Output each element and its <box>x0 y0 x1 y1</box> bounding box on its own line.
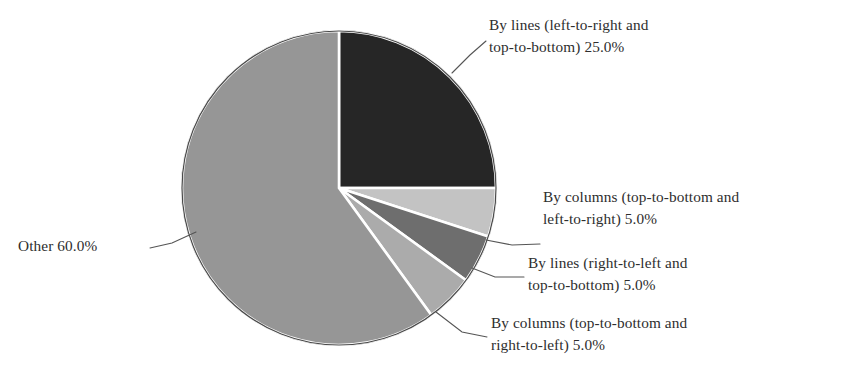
slice-label-by-columns-ltr: By columns (top-to-bottom and left-to-ri… <box>543 186 739 229</box>
pie-slices <box>182 31 496 345</box>
slice-label-line-1: By columns (top-to-bottom and <box>543 186 739 208</box>
slice-label-by-lines-ltr: By lines (left-to-right and top-to-botto… <box>489 14 648 57</box>
slice-label-line-1: By columns (top-to-bottom and <box>491 312 687 334</box>
leader-line-by-lines-ltr <box>452 41 486 73</box>
leader-line-by-columns-rtl <box>436 312 487 337</box>
leader-line-by-lines-rtl <box>472 268 524 277</box>
slice-label-line-2: right-to-left) 5.0% <box>491 334 687 356</box>
slice-label-line-1: By lines (right-to-left and <box>528 252 687 274</box>
pie-chart-figure: By lines (left-to-right and top-to-botto… <box>0 0 860 383</box>
pie-slice-by-lines-ltr[interactable] <box>339 31 496 188</box>
slice-label-line-1: Other 60.0% <box>18 235 97 257</box>
slice-label-by-columns-rtl: By columns (top-to-bottom and right-to-l… <box>491 312 687 355</box>
slice-label-line-2: top-to-bottom) 5.0% <box>528 274 687 296</box>
slice-label-line-1: By lines (left-to-right and <box>489 14 648 36</box>
slice-label-line-2: left-to-right) 5.0% <box>543 208 739 230</box>
slice-label-other: Other 60.0% <box>18 235 97 257</box>
slice-label-line-2: top-to-bottom) 25.0% <box>489 36 648 58</box>
slice-label-by-lines-rtl: By lines (right-to-left and top-to-botto… <box>528 252 687 295</box>
leader-line-by-columns-ltr <box>486 240 540 245</box>
